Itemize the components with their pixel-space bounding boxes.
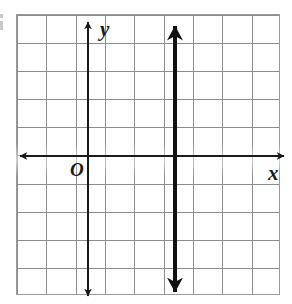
x-axis-label: x — [268, 163, 279, 184]
origin-label: O — [70, 160, 84, 179]
y-axis-label: y — [100, 19, 109, 40]
plot-layer — [0, 0, 292, 304]
coordinate-plane-figure: y x O — [0, 0, 292, 304]
